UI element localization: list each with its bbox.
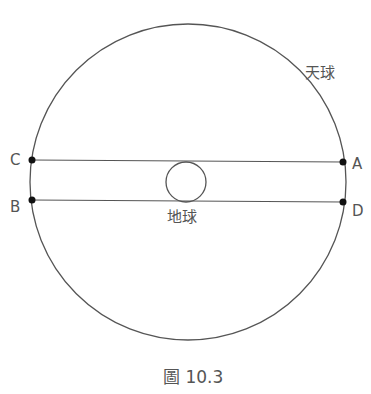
point-c-dot <box>29 157 36 164</box>
point-a-label: A <box>352 157 362 172</box>
celestial-sphere-circle <box>30 24 346 340</box>
diagram-canvas <box>0 0 371 394</box>
point-d-dot <box>340 199 347 206</box>
celestial-sphere-label: 天球 <box>305 66 335 81</box>
point-c-label: C <box>10 153 20 168</box>
point-a-dot <box>340 159 347 166</box>
point-b-label: B <box>10 200 20 215</box>
figure-caption: 圖 10.3 <box>163 369 223 386</box>
point-b-dot <box>29 197 36 204</box>
point-d-label: D <box>352 204 364 219</box>
earth-label: 地球 <box>167 210 197 225</box>
earth-circle <box>166 162 206 202</box>
